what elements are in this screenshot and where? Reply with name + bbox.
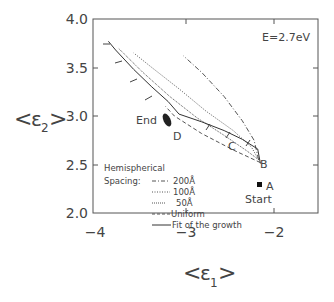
ytick-label: 3.0 — [66, 108, 88, 124]
energy-annotation: E=2.7eV — [262, 31, 310, 44]
legend-item: 100Å — [173, 186, 195, 197]
start-label: Start — [245, 193, 273, 206]
start-marker — [257, 182, 262, 187]
point-label-d: D — [173, 130, 181, 143]
legend: Hemispherical Spacing: 200Å 100Å 50Å Uni… — [104, 163, 242, 230]
chart: 4.0 3.5 3.0 2.5 2.0 −4 −3 −2 < ε 2 > < ε… — [0, 0, 334, 302]
xtick-label: −4 — [85, 224, 106, 240]
legend-item: Fit of the growth — [172, 220, 242, 230]
legend-item: 50Å — [176, 197, 193, 208]
svg-text:2: 2 — [41, 121, 49, 135]
series-fit-of-the-growth — [108, 41, 260, 163]
legend-item: Uniform — [171, 209, 205, 219]
xtick-label: −2 — [264, 224, 285, 240]
svg-text:<: < — [14, 106, 32, 131]
svg-text:>: > — [49, 106, 67, 131]
x-axis-label: < ε 1 > — [183, 260, 236, 290]
point-label-a: A — [266, 180, 274, 193]
ytick-label: 2.0 — [66, 205, 88, 221]
y-axis-label: < ε 2 > — [14, 106, 67, 135]
ytick-label: 2.5 — [66, 157, 88, 173]
svg-text:1: 1 — [210, 276, 218, 290]
ytick-label: 3.5 — [66, 60, 88, 76]
end-label: End — [136, 114, 157, 127]
svg-text:>: > — [218, 260, 236, 285]
legend-title: Hemispherical — [104, 163, 165, 173]
legend-title: Spacing: — [104, 176, 141, 186]
series-100- — [134, 53, 259, 160]
series-layer — [108, 41, 260, 163]
svg-text:<: < — [183, 260, 201, 285]
point-label-b: B — [260, 158, 268, 171]
ytick-label: 4.0 — [66, 11, 88, 27]
point-label-c: C — [228, 140, 236, 153]
end-marker — [161, 112, 173, 128]
legend-item: 200Å — [173, 175, 195, 186]
series-50- — [118, 48, 258, 160]
